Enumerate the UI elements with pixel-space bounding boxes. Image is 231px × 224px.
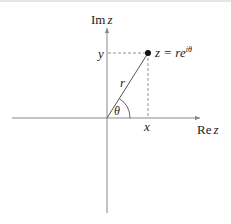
point-z <box>145 50 151 56</box>
real-axis-label: Rez <box>197 122 219 137</box>
y-label: y <box>96 46 104 61</box>
x-label: x <box>143 119 150 134</box>
complex-plane-diagram: Imz Rez y x r θ z = reiθ <box>0 0 231 224</box>
point-z-label: z = reiθ <box>154 45 192 60</box>
imaginary-axis-label: Imz <box>91 12 113 27</box>
theta-label: θ <box>114 104 120 118</box>
r-label: r <box>120 75 126 90</box>
theta-arc <box>119 99 130 118</box>
